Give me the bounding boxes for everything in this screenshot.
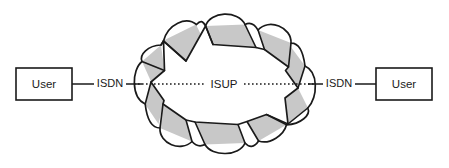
isdn-right-label: ISDN (326, 77, 352, 89)
isup-label: ISUP (211, 78, 238, 90)
diagram-canvas: User User ISDN ISDN ISUP (0, 0, 449, 168)
isdn-left-label: ISDN (97, 77, 123, 89)
user-left-label: User (32, 78, 56, 90)
user-right-label: User (392, 78, 416, 90)
link-isdn-right: ISDN (308, 77, 376, 89)
node-user-right[interactable]: User (376, 68, 432, 100)
link-isdn-left: ISDN (72, 77, 142, 89)
network-diagram: User User ISDN ISDN ISUP (0, 0, 449, 168)
node-user-left[interactable]: User (16, 68, 72, 100)
